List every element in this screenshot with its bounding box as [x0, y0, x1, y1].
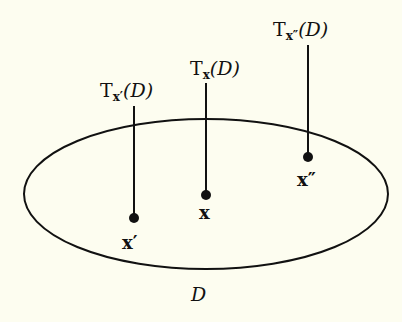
point-x-group: Tx(D) x — [190, 57, 240, 223]
region-label-d: D — [190, 283, 206, 305]
tangent-space-diagram: Tx′(D) x′ Tx(D) x Tx″(D) x″ D — [0, 0, 402, 322]
point-x-prime-group: Tx′(D) x′ — [100, 79, 153, 253]
point-x-double-prime-group: Tx″(D) x″ — [273, 18, 328, 190]
point-label-x-double-prime: x″ — [297, 169, 316, 190]
tangent-label-x-prime: Tx′(D) — [100, 79, 153, 104]
tangent-label-x-double-prime: Tx″(D) — [273, 18, 328, 43]
point-x-prime — [129, 213, 139, 223]
point-label-x-prime: x′ — [122, 232, 138, 253]
tangent-label-x: Tx(D) — [190, 57, 240, 82]
point-x — [201, 190, 211, 200]
point-x-double-prime — [303, 152, 313, 162]
point-label-x: x — [199, 202, 210, 223]
